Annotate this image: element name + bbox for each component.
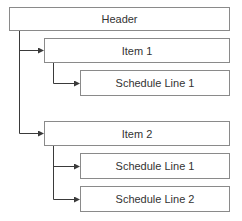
item-2-schedule-line-1-box: Schedule Line 1 [80,153,230,179]
item-2-label: Item 2 [122,128,153,140]
item-2-schedule-line-1-label: Schedule Line 1 [116,160,195,172]
item-2-schedule-line-2-box: Schedule Line 2 [80,186,230,212]
item-1-box: Item 1 [44,38,230,63]
item-2-box: Item 2 [44,121,230,146]
item-2-schedule-line-2-label: Schedule Line 2 [116,193,195,205]
item-1-schedule-line-1-label: Schedule Line 1 [116,77,195,89]
item-1-label: Item 1 [122,45,153,57]
header-box: Header [9,7,230,31]
item-1-schedule-line-1-box: Schedule Line 1 [80,70,230,96]
header-label: Header [101,13,137,25]
